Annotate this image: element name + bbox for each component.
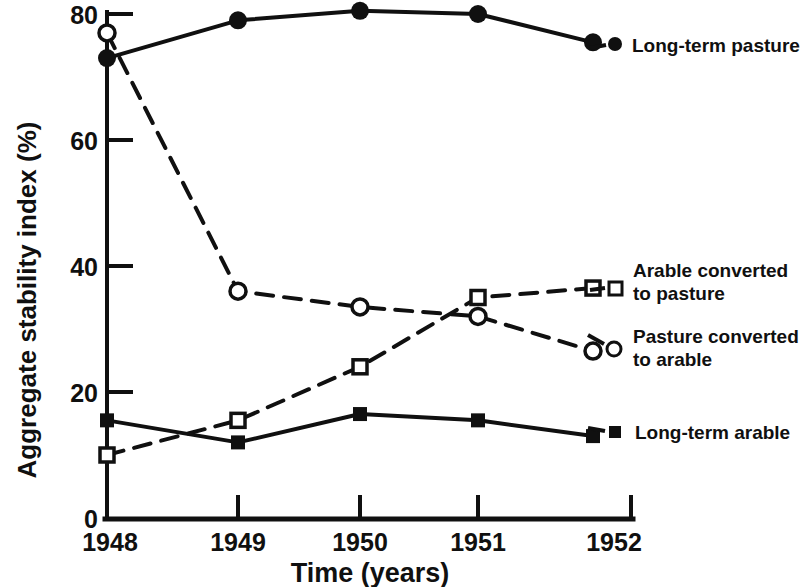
x-tick-label-1951: 1951: [450, 528, 506, 556]
legend-label-line1: Long-term pasture: [632, 35, 800, 56]
y-axis-ticks: [107, 14, 133, 392]
line-chart-canvas: 80 60 40 20 0 1948 1949 1950 1951 1952 T…: [0, 0, 807, 587]
filled-square-icon: [471, 413, 485, 427]
legend-label-line1: Long-term arable: [635, 422, 790, 443]
legend: Long-term pasture Arable converted to pa…: [588, 35, 800, 443]
legend-connector-line: [590, 288, 605, 290]
legend-entry-long-term-arable[interactable]: Long-term arable: [588, 422, 790, 443]
open-square-icon: [609, 282, 622, 295]
chart-figure: 80 60 40 20 0 1948 1949 1950 1951 1952 T…: [0, 0, 807, 587]
filled-circle-icon: [351, 2, 369, 20]
filled-square-icon: [609, 426, 621, 438]
series-pasture-converted-to-arable: [99, 25, 601, 359]
open-circle-icon: [585, 343, 601, 359]
open-circle-icon: [99, 25, 115, 41]
x-tick-label-1950: 1950: [332, 528, 388, 556]
legend-label-line2: to arable: [633, 349, 712, 370]
y-tick-label-80: 80: [70, 1, 98, 29]
series-arable-converted-to-pasture: [100, 281, 600, 462]
open-square-icon: [100, 448, 114, 462]
filled-square-icon: [231, 435, 245, 449]
open-square-icon: [353, 360, 367, 374]
open-square-icon: [231, 413, 245, 427]
filled-circle-icon: [229, 11, 247, 29]
filled-circle-icon: [608, 37, 622, 51]
filled-square-icon: [353, 407, 367, 421]
y-axis-title: Aggregate stability index (%): [12, 122, 42, 479]
x-axis-ticks: [238, 495, 631, 519]
legend-label-line2: to pasture: [633, 283, 725, 304]
open-circle-icon: [352, 299, 368, 315]
x-tick-label-1952: 1952: [586, 528, 642, 556]
legend-label-line1: Arable converted: [633, 260, 788, 281]
y-tick-label-60: 60: [70, 127, 98, 155]
series-line: [107, 33, 593, 351]
open-circle-icon: [470, 308, 486, 324]
filled-square-icon: [100, 413, 114, 427]
y-tick-label-20: 20: [70, 379, 98, 407]
series-line: [107, 414, 593, 442]
open-square-icon: [471, 291, 485, 305]
legend-entry-pasture-converted-to-arable[interactable]: Pasture converted to arable: [588, 326, 799, 370]
legend-entry-long-term-pasture[interactable]: Long-term pasture: [590, 35, 800, 56]
legend-entry-arable-converted-to-pasture[interactable]: Arable converted to pasture: [590, 260, 788, 304]
series-long-term-pasture: [98, 2, 602, 67]
x-tick-label-1949: 1949: [210, 528, 266, 556]
open-circle-icon: [607, 342, 621, 356]
legend-label-line1: Pasture converted: [633, 326, 799, 347]
series-line: [107, 288, 593, 455]
filled-circle-icon: [98, 49, 116, 67]
series-line: [107, 11, 593, 58]
open-circle-icon: [230, 283, 246, 299]
x-tick-label-1948: 1948: [82, 528, 138, 556]
x-axis-title: Time (years): [291, 558, 450, 587]
data-series-layer: [98, 2, 602, 462]
series-long-term-arable: [100, 407, 600, 449]
y-tick-label-40: 40: [70, 253, 98, 281]
filled-circle-icon: [469, 5, 487, 23]
